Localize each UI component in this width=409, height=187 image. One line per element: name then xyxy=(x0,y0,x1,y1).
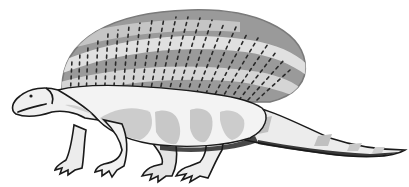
sail-back-reptile-drawing xyxy=(0,0,409,187)
front-legs xyxy=(55,120,127,177)
eye xyxy=(29,94,32,97)
illustration-canvas: sail-backed prehistoric reptile illustra… xyxy=(0,0,409,187)
